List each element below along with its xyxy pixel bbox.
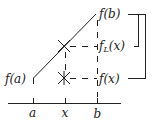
- label-fx: f(x): [98, 72, 120, 86]
- label-fa: f(a): [4, 72, 26, 86]
- interpolation-diagram: f(b) fL(x) f(x) f(a) a x b: [0, 0, 158, 121]
- inner-bracket: [134, 15, 139, 47]
- cross-actual-icon: [58, 71, 70, 85]
- cross-interpolated-icon: [58, 40, 70, 52]
- label-fl-arg: (x): [109, 39, 125, 53]
- tick-label-a: a: [29, 106, 36, 120]
- tick-label-b: b: [94, 107, 102, 121]
- label-fb: f(b): [98, 7, 121, 21]
- label-fl: fL(x): [98, 39, 125, 54]
- tick-label-x: x: [62, 106, 69, 120]
